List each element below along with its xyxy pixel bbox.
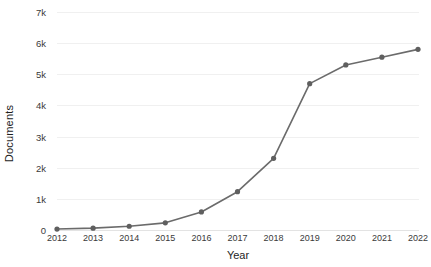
x-axis-tick-label: 2016 — [191, 233, 211, 243]
data-point — [307, 81, 312, 86]
y-axis-tick-label: 5k — [36, 69, 46, 80]
data-point — [127, 224, 132, 229]
x-axis-tick-label: 2017 — [227, 233, 247, 243]
plot-area — [57, 12, 419, 230]
data-point — [91, 226, 96, 231]
series-markers — [54, 47, 420, 232]
y-axis-tick-label: 7k — [36, 7, 46, 18]
x-axis-tick-label: 2022 — [408, 233, 428, 243]
x-axis-tick-label: 2014 — [119, 233, 139, 243]
y-axis-tick-label: 2k — [36, 162, 46, 173]
x-axis-tick-label: 2019 — [300, 233, 320, 243]
data-point — [415, 47, 420, 52]
x-axis-tick-label: 2013 — [83, 233, 103, 243]
x-axis-title: Year — [57, 249, 419, 261]
x-axis-tick-labels: 2012201320142015201620172018201920202021… — [57, 233, 419, 247]
y-axis-tick-label: 3k — [36, 131, 46, 142]
x-axis-tick-label: 2018 — [264, 233, 284, 243]
y-axis-tick-label: 6k — [36, 38, 46, 49]
data-point — [163, 220, 168, 225]
data-point — [343, 62, 348, 67]
line-chart: Documents 01k2k3k4k5k6k7k 20122013201420… — [0, 0, 431, 267]
data-point — [379, 55, 384, 60]
data-point — [54, 226, 59, 231]
series-line — [57, 49, 418, 229]
x-axis-tick-label: 2020 — [336, 233, 356, 243]
y-axis-tick-label: 0 — [41, 225, 46, 236]
y-axis-tick-labels: 01k2k3k4k5k6k7k — [0, 12, 52, 230]
data-point — [199, 209, 204, 214]
data-point — [235, 189, 240, 194]
gridline — [57, 230, 419, 231]
x-axis-tick-label: 2021 — [372, 233, 392, 243]
y-axis-tick-label: 1k — [36, 193, 46, 204]
series-documents — [57, 12, 419, 230]
y-axis-tick-label: 4k — [36, 100, 46, 111]
x-axis-tick-label: 2012 — [47, 233, 67, 243]
data-point — [271, 156, 276, 161]
x-axis-tick-label: 2015 — [155, 233, 175, 243]
